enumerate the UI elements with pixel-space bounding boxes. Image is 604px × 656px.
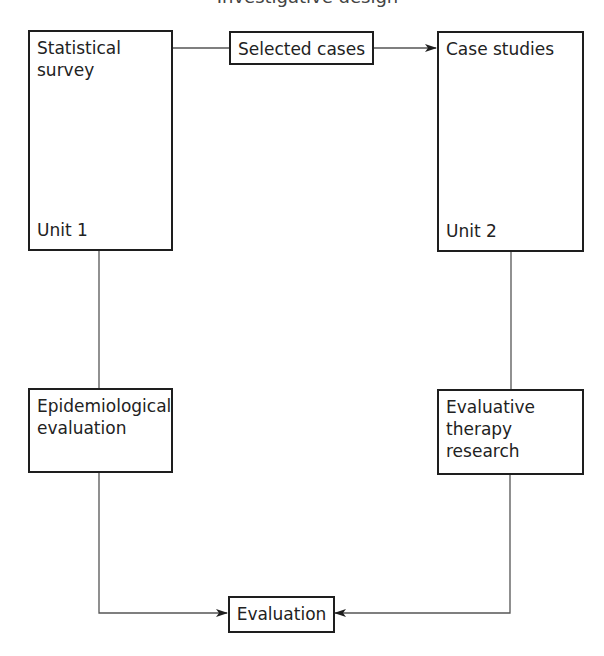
edge-evaluative-to-evaluation: [335, 474, 510, 613]
node-label: Epidemiological evaluation: [37, 395, 171, 439]
node-statistical-survey: Statistical survey Unit 1: [28, 30, 173, 251]
node-epidemiological-evaluation: Epidemiological evaluation: [28, 388, 173, 473]
node-selected-cases: Selected cases: [229, 31, 374, 65]
node-evaluation: Evaluation: [228, 596, 335, 633]
node-label: Evaluation: [230, 598, 333, 625]
node-label: Statistical survey: [37, 37, 121, 81]
node-case-studies: Case studies Unit 2: [437, 31, 584, 252]
node-label: Evaluative therapy research: [446, 396, 535, 462]
node-label: Selected cases: [231, 33, 372, 60]
unit-label: Unit 2: [446, 220, 497, 242]
edge-epidemiological-to-evaluation: [99, 472, 227, 613]
unit-label: Unit 1: [37, 219, 88, 241]
node-label: Case studies: [446, 38, 554, 60]
research-design-diagram: Investigative design Statistical survey …: [0, 0, 604, 656]
node-evaluative-therapy-research: Evaluative therapy research: [437, 389, 584, 475]
